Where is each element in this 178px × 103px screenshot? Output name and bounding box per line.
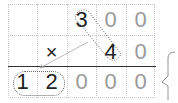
pair-highlight-oval (75, 10, 121, 61)
brace-icon (162, 52, 175, 100)
carry-arrow (40, 42, 88, 68)
annotation-overlay (0, 0, 178, 103)
